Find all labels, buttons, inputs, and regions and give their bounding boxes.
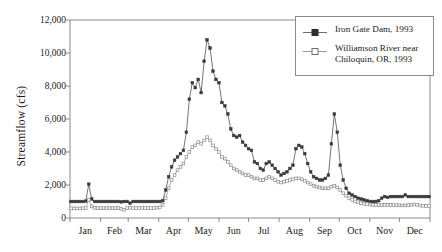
x-tick-label: Jul bbox=[258, 225, 270, 236]
legend-label-williamson-river: Williamson River near Chiloquin, OR, 199… bbox=[335, 43, 418, 66]
x-tick-label: Sep bbox=[317, 225, 332, 236]
legend-item-iron-gate-dam: Iron Gate Dam, 1993 bbox=[302, 24, 427, 36]
x-tick-label: Nov bbox=[376, 225, 393, 236]
x-tick-label: Aug bbox=[286, 225, 303, 236]
legend-label-iron-gate-dam: Iron Gate Dam, 1993 bbox=[335, 24, 413, 36]
x-tick-label: Mar bbox=[135, 225, 152, 236]
x-tick-label: May bbox=[194, 225, 212, 236]
x-tick-label: Feb bbox=[107, 225, 122, 236]
legend-marker-filled-square-icon bbox=[302, 24, 328, 35]
x-tick-label: Dec bbox=[407, 225, 423, 236]
x-tick-label: Apr bbox=[166, 225, 182, 236]
legend-label-williamson-river-line2: Chiloquin, OR, 1993 bbox=[335, 54, 418, 66]
data-series-williamson-river bbox=[70, 136, 431, 211]
legend-item-williamson-river: Williamson River near Chiloquin, OR, 199… bbox=[302, 43, 427, 66]
streamflow-chart-figure: Streamflow (cfs) 02,0004,0006,0008,00010… bbox=[0, 0, 442, 252]
chart-legend: Iron Gate Dam, 1993 Williamson River nea… bbox=[295, 16, 434, 76]
x-tick-label: Jun bbox=[227, 225, 241, 236]
legend-marker-open-square-icon bbox=[302, 43, 328, 54]
x-tick-label: Jan bbox=[79, 225, 92, 236]
legend-label-williamson-river-line1: Williamson River near bbox=[335, 43, 418, 55]
x-tick-label: Oct bbox=[347, 225, 361, 236]
